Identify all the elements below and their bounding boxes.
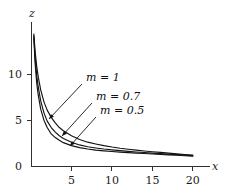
x-tick-label: 5 (68, 174, 75, 187)
series-annotations-group: m = 1m = 0.7m = 0.5 (49, 71, 144, 146)
y-axis-ticks: 0510 (8, 68, 31, 173)
x-axis-ticks: 5101520 (68, 166, 200, 187)
x-axis-title: x (212, 160, 219, 173)
y-tick-label: 5 (15, 114, 22, 127)
y-tick-label: 10 (8, 68, 22, 81)
x-tick-label: 20 (186, 174, 200, 187)
leader-line (62, 103, 92, 136)
chart-plot: 5101520 0510 m = 1m = 0.7m = 0.5 x z (0, 0, 225, 196)
y-axis-title: z (28, 7, 35, 20)
leader-line (70, 117, 96, 146)
x-tick-label: 15 (145, 174, 159, 187)
figure-container: 5101520 0510 m = 1m = 0.7m = 0.5 x z (0, 0, 225, 196)
annotation-label: m = 1 (86, 71, 120, 84)
x-tick-label: 10 (105, 174, 119, 187)
annotation-label: m = 0.5 (100, 104, 144, 117)
annotation-label: m = 0.7 (96, 90, 140, 103)
y-tick-label: 0 (15, 160, 22, 173)
leader-line (49, 84, 82, 119)
